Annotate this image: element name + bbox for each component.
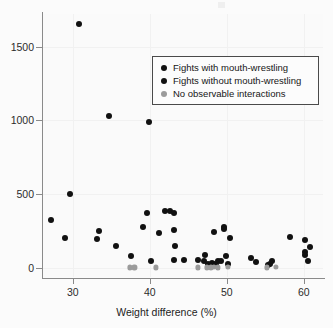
data-point	[171, 257, 177, 263]
data-point	[305, 258, 311, 264]
data-point	[253, 259, 259, 265]
data-point	[113, 243, 119, 249]
data-point	[221, 226, 227, 232]
data-point	[128, 253, 134, 259]
data-point	[202, 252, 208, 258]
legend-item-label: No observable interactions	[173, 89, 285, 99]
x-axis-tick-label: 50	[221, 287, 233, 298]
y-axis-spine	[42, 12, 43, 279]
data-point	[195, 257, 201, 263]
y-axis-tick	[36, 268, 42, 269]
legend-marker-icon	[161, 78, 167, 84]
data-point	[211, 229, 217, 235]
x-axis-tick-label: 40	[144, 287, 156, 298]
gridline-vertical	[150, 14, 151, 277]
y-axis-tick-label: 500	[16, 189, 34, 200]
data-point	[106, 113, 112, 119]
x-axis-tick	[227, 279, 228, 284]
data-point	[287, 234, 293, 240]
legend-item-label: Fights with mouth-wrestling	[173, 63, 288, 73]
plot-area	[42, 14, 323, 277]
data-point	[76, 21, 82, 27]
y-axis-tick-label: 0	[28, 263, 34, 274]
data-point	[223, 253, 229, 259]
data-point	[144, 210, 150, 216]
x-axis-title: Weight difference (%)	[0, 306, 333, 318]
legend-item: Fights without mouth-wrestling	[158, 74, 312, 87]
data-point	[227, 235, 233, 241]
y-axis-tick	[36, 194, 42, 195]
legend: Fights with mouth-wrestlingFights withou…	[152, 56, 319, 105]
gridline-horizontal	[42, 194, 323, 195]
y-axis-tick-label: 1500	[11, 42, 34, 53]
gridline-horizontal	[42, 120, 323, 121]
x-axis-tick	[73, 279, 74, 284]
data-point	[302, 237, 308, 243]
data-point	[218, 258, 224, 264]
x-axis-spine	[42, 278, 325, 279]
corner-artifact	[218, 2, 225, 8]
legend-item-label: Fights without mouth-wrestling	[173, 76, 301, 86]
gridline-horizontal	[42, 47, 323, 48]
y-axis-tick	[36, 47, 42, 48]
x-axis-tick	[304, 279, 305, 284]
y-axis-tick	[36, 120, 42, 121]
data-point	[67, 191, 73, 197]
gridline-horizontal	[42, 268, 323, 269]
y-axis-tick-label: 1000	[11, 115, 34, 126]
legend-marker-icon	[161, 65, 167, 71]
data-point	[146, 119, 152, 125]
data-point	[269, 258, 275, 264]
gridline-vertical	[73, 14, 74, 277]
x-axis-tick	[150, 279, 151, 284]
data-point	[302, 252, 308, 258]
data-point	[48, 217, 54, 223]
data-point	[171, 227, 177, 233]
data-point	[156, 230, 162, 236]
data-point	[96, 228, 102, 234]
data-point	[140, 224, 146, 230]
data-point	[171, 210, 177, 216]
legend-item: No observable interactions	[158, 87, 312, 100]
data-point	[181, 257, 187, 263]
legend-marker-icon	[161, 91, 167, 97]
legend-item: Fights with mouth-wrestling	[158, 61, 312, 74]
x-axis-tick-label: 60	[298, 287, 310, 298]
data-point	[148, 258, 154, 264]
data-point	[94, 236, 100, 242]
data-point	[172, 243, 178, 249]
scatter-plot-figure: Fights with mouth-wrestlingFights withou…	[0, 0, 333, 328]
data-point	[62, 235, 68, 241]
data-point	[307, 244, 313, 250]
x-axis-tick-label: 30	[67, 287, 79, 298]
